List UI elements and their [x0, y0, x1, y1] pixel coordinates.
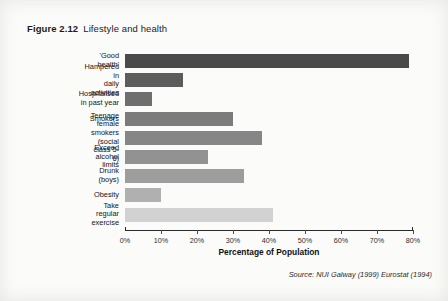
x-axis-left-cap	[125, 227, 126, 231]
bar-row: Take regular exercise	[125, 208, 273, 222]
bar	[125, 92, 152, 106]
x-axis-tick-label: 10%	[154, 236, 168, 245]
bar-row: Hampered in daily activities	[125, 73, 183, 87]
bar	[125, 208, 273, 222]
bar	[125, 73, 183, 87]
bar-row: Hospitalised in past year	[125, 92, 152, 106]
bar	[125, 131, 262, 145]
category-label: Hospitalised in past year	[79, 91, 119, 108]
figure-container: Figure 2.12Lifestyle and health 'Good he…	[0, 0, 448, 301]
x-axis-tick-label: 50%	[298, 236, 312, 245]
chart-plot-area: 'Good health'Hampered in daily activitie…	[125, 53, 413, 230]
figure-caption: Lifestyle and health	[83, 23, 167, 34]
x-axis-tick-label: 30%	[226, 236, 240, 245]
bar	[125, 150, 208, 164]
category-label: Drunk (boys)	[98, 168, 119, 185]
figure-title: Figure 2.12Lifestyle and health	[27, 23, 167, 34]
x-axis-tick	[161, 230, 162, 234]
x-axis-tick-label: 80%	[406, 236, 420, 245]
x-axis-tick-label: 20%	[190, 236, 204, 245]
category-label: Obesity	[94, 191, 119, 200]
x-axis-tick	[197, 230, 198, 234]
x-axis-tick-label: 0%	[120, 236, 130, 245]
x-axis-tick	[233, 230, 234, 234]
bar-row: 'Good health'	[125, 54, 409, 68]
figure-number: Figure 2.12	[27, 23, 78, 34]
x-axis-tick-label: 70%	[370, 236, 384, 245]
x-axis-tick	[305, 230, 306, 234]
source-note: Source: NUI Galway (1999) Eurostat (1994…	[289, 270, 432, 279]
bar	[125, 54, 409, 68]
bar	[125, 112, 233, 126]
x-axis-tick	[377, 230, 378, 234]
bar	[125, 188, 161, 202]
x-axis-tick-label: 40%	[262, 236, 276, 245]
x-axis-title: Percentage of Population	[125, 247, 413, 257]
bar-row: Drunk (boys)	[125, 169, 244, 183]
bar-row: Smokers	[125, 112, 233, 126]
x-axis-tick	[341, 230, 342, 234]
bar	[125, 169, 244, 183]
bar-row: Obesity	[125, 188, 161, 202]
x-axis-tick	[269, 230, 270, 234]
x-axis-tick-label: 60%	[334, 236, 348, 245]
category-label: Take regular exercise	[91, 202, 119, 228]
bar-row: Exceed alcohol limits	[125, 150, 208, 164]
x-axis-tick	[413, 230, 414, 234]
bar-row: Teenage female smokers (social class 5-6…	[125, 131, 262, 145]
